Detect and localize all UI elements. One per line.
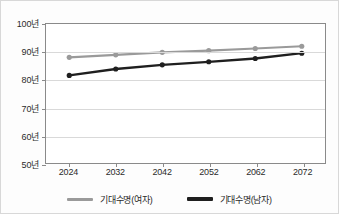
gridline-70 (46, 109, 325, 110)
y-tick-label-60: 60년 (0, 129, 39, 142)
y-tick-mark-80 (42, 80, 46, 81)
y-tick-mark-100 (42, 24, 46, 25)
legend-item-1[interactable]: 기대수명(여자) (67, 193, 152, 206)
data-point (160, 62, 165, 67)
y-tick-mark-50 (42, 165, 46, 166)
y-tick-label-50: 50년 (0, 158, 39, 171)
x-tick-label-2072: 2072 (293, 167, 312, 177)
plot-area (45, 23, 326, 164)
data-point (253, 46, 258, 51)
legend-item-2[interactable]: 기대수명(남자) (187, 193, 272, 206)
x-tick-label-2062: 2062 (246, 167, 265, 177)
life-expectancy-chart: 50년60년70년80년90년100년 20242032204220522062… (0, 0, 339, 214)
series-layer (46, 24, 325, 163)
data-point (299, 44, 304, 49)
legend-label: 기대수명(여자) (100, 193, 152, 206)
gridline-90 (46, 52, 325, 53)
y-tick-label-80: 80년 (0, 73, 39, 86)
y-axis-labels: 50년60년70년80년90년100년 (1, 23, 41, 164)
data-point (67, 55, 72, 60)
data-point (67, 73, 72, 78)
chart-legend: 기대수명(여자)기대수명(남자) (1, 189, 338, 209)
legend-label: 기대수명(남자) (220, 193, 272, 206)
x-axis-labels: 202420322042205220622072 (45, 167, 326, 183)
x-tick-label-2052: 2052 (199, 167, 218, 177)
gridline-80 (46, 80, 325, 81)
y-tick-label-100: 100년 (0, 17, 39, 30)
x-tick-label-2042: 2042 (152, 167, 171, 177)
y-tick-mark-70 (42, 109, 46, 110)
y-tick-label-90: 90년 (0, 45, 39, 58)
data-point (253, 56, 258, 61)
y-tick-mark-60 (42, 137, 46, 138)
x-tick-label-2024: 2024 (59, 167, 78, 177)
y-tick-label-70: 70년 (0, 101, 39, 114)
gridline-60 (46, 137, 325, 138)
legend-swatch-line-icon (187, 197, 213, 201)
data-point (206, 59, 211, 64)
x-tick-label-2032: 2032 (106, 167, 125, 177)
data-point (113, 66, 118, 71)
legend-swatch-line-icon (67, 198, 93, 201)
y-tick-mark-90 (42, 52, 46, 53)
